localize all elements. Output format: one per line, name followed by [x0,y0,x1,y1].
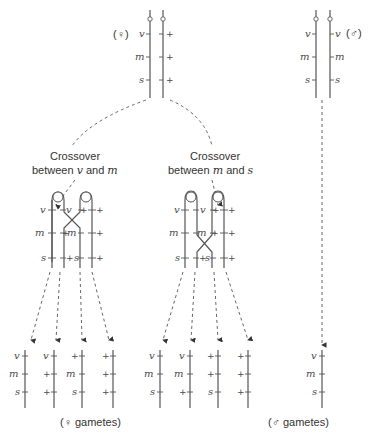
svg-text:+: + [211,228,219,238]
arrow-gamete [163,272,183,340]
gamete: + + s [207,350,221,408]
svg-text:m: m [35,227,44,238]
female-parent-chromosomes: (♀) v m s + + + [113,10,174,98]
crossover-diagram: (♀) v m s + + + v m s v m s (♂) Crossove… [0,0,382,440]
gene-label: s [305,74,310,85]
svg-text:+: + [71,351,79,361]
svg-text:+: + [228,205,236,215]
svg-text:+: + [179,387,187,397]
arrow-gamete [31,272,50,340]
arrow-gamete [92,272,109,340]
gamete: v m + [174,350,193,408]
gene-label: s [139,74,144,85]
male-symbol: (♂) [346,27,362,39]
gene-label: m [300,51,309,62]
gene-label: v [335,28,341,39]
arrow-gamete [226,272,248,340]
svg-text:+: + [96,205,104,215]
svg-text:s: s [208,386,213,397]
svg-text:s: s [312,386,317,397]
svg-text:+: + [102,387,110,397]
svg-text:+: + [43,369,51,379]
svg-text:+: + [102,369,110,379]
svg-text:+: + [237,351,245,361]
svg-text:m: m [9,368,18,379]
svg-text:v: v [174,204,180,215]
svg-text:m: m [66,368,75,379]
gene-label: m [135,51,144,62]
svg-text:v: v [43,350,49,361]
svg-text:+: + [228,228,236,238]
gamete: v m s [9,350,28,408]
svg-text:v: v [200,204,206,215]
svg-text:+: + [207,369,215,379]
tetrad-crossover-ms: v v + + m m + + s + s + [169,191,236,268]
svg-text:m: m [174,368,183,379]
gene-label: v [139,28,145,39]
svg-text:s: s [72,386,77,397]
svg-text:+: + [96,253,104,263]
gamete: + + + [237,350,251,408]
svg-text:v: v [14,350,20,361]
svg-text:m: m [144,368,153,379]
gene-label: m [335,51,344,62]
svg-text:+: + [43,387,51,397]
svg-text:s: s [15,386,20,397]
svg-text:m: m [67,227,76,238]
svg-text:+: + [207,351,215,361]
svg-text:s: s [175,252,180,263]
gene-label: v [305,28,311,39]
crossover-ms-title: Crossover [190,150,240,162]
svg-text:s: s [41,252,46,263]
tetrad-crossover-vm: v v + + m + m + s + s + [35,192,104,268]
svg-text:s: s [205,252,210,263]
svg-text:v: v [40,204,46,215]
gamete: v + + [43,350,57,408]
svg-text:v: v [149,350,155,361]
gamete: v m s [144,350,163,408]
svg-text:m: m [306,368,315,379]
crossover-vm-title: Crossover [50,150,100,162]
arrow-gamete [214,272,218,340]
gene-label: + [166,29,174,39]
arrow-gamete [80,272,82,340]
crossover-ms-subtitle: between m and s [168,164,254,177]
svg-text:+: + [237,387,245,397]
gamete: + + + [102,350,116,408]
female-gametes-caption: (♀ gametes) [60,416,121,428]
gene-label: s [335,74,340,85]
arrow-gamete [191,272,195,340]
diagram-canvas: (♀) v m s + + + v m s v m s (♂) Crossove… [0,0,382,440]
arrow-to-vm-label [72,100,146,146]
gametes-crossover-vm: v m s v + + + m s + + + [9,350,116,408]
male-gametes-caption: (♂ gametes) [268,416,329,428]
female-symbol: (♀) [113,28,129,40]
gamete: + m s [66,350,85,408]
svg-text:v: v [66,204,72,215]
gametes-crossover-ms: v m s v m + + + s + + + [144,350,251,408]
svg-text:+: + [66,253,74,263]
arrow-gamete [56,272,60,340]
svg-text:+: + [237,369,245,379]
male-parent-chromosomes: v m s v m s (♂) [300,10,362,98]
svg-text:m: m [197,227,206,238]
svg-text:+: + [102,351,110,361]
svg-text:m: m [169,227,178,238]
gene-label: + [166,75,174,85]
svg-text:v: v [311,350,317,361]
svg-text:s: s [150,386,155,397]
svg-text:+: + [212,205,220,215]
arrow-to-ms-label [170,100,212,146]
gene-label: + [166,52,174,62]
svg-text:v: v [179,350,185,361]
crossover-vm-subtitle: between v and m [32,164,118,177]
svg-text:+: + [80,205,88,215]
svg-text:+: + [96,228,104,238]
male-gamete: v m s [306,350,325,408]
svg-text:s: s [74,252,79,263]
svg-text:+: + [228,253,236,263]
